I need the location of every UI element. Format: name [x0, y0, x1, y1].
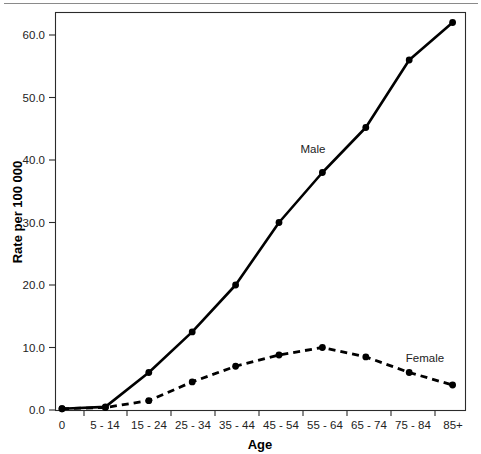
- data-point-female-9: [449, 382, 456, 389]
- x-tick-label-6: 55 - 64: [307, 419, 343, 431]
- data-point-male-7: [362, 124, 369, 131]
- data-point-female-1: [102, 404, 109, 411]
- data-point-female-4: [232, 363, 239, 370]
- data-point-male-9: [449, 19, 456, 26]
- x-tick-marks: [84, 411, 435, 417]
- x-tick-label-2: 15 - 24: [131, 419, 167, 431]
- x-tick-label-9: 85+: [443, 419, 463, 431]
- x-tick-labels: 0 5 - 14 15 - 24 25 - 34 35 - 44 45 - 54…: [59, 419, 463, 431]
- y-tick-marks: [49, 35, 56, 410]
- data-point-male-6: [319, 169, 326, 176]
- x-tick-label-3: 25 - 34: [175, 419, 211, 431]
- data-point-female-3: [189, 378, 196, 385]
- data-point-female-5: [276, 352, 283, 359]
- plot-frame: [56, 13, 466, 411]
- x-tick-label-8: 75 - 84: [395, 419, 431, 431]
- line-chart: 0.0 10.0 20.0 30.0 40.0 50.0 60.0 Rate p…: [0, 0, 481, 454]
- y-tick-label-1: 10.0: [23, 342, 45, 354]
- x-axis-title: Age: [248, 437, 273, 452]
- data-point-male-8: [406, 57, 413, 64]
- data-point-female-6: [319, 344, 326, 351]
- data-point-male-3: [189, 328, 196, 335]
- series-annotation-male: Male: [301, 143, 326, 155]
- y-tick-label-3: 30.0: [23, 217, 45, 229]
- y-tick-label-2: 20.0: [23, 279, 45, 291]
- series-annotation-female: Female: [406, 352, 444, 364]
- data-point-male-4: [232, 282, 239, 289]
- figure-container: 0.0 10.0 20.0 30.0 40.0 50.0 60.0 Rate p…: [0, 0, 481, 454]
- x-tick-label-5: 45 - 54: [263, 419, 299, 431]
- data-point-female-0: [59, 405, 66, 412]
- x-tick-label-7: 65 - 74: [351, 419, 387, 431]
- x-tick-label-4: 35 - 44: [219, 419, 255, 431]
- x-tick-label-0: 0: [59, 419, 65, 431]
- data-point-male-2: [145, 369, 152, 376]
- y-tick-label-4: 40.0: [23, 154, 45, 166]
- y-tick-labels: 0.0 10.0 20.0 30.0 40.0 50.0 60.0: [23, 29, 45, 416]
- y-axis-title: Rate per 100 000: [10, 161, 25, 264]
- y-tick-label-0: 0.0: [29, 404, 45, 416]
- data-point-female-7: [362, 353, 369, 360]
- y-tick-label-6: 60.0: [23, 29, 45, 41]
- data-point-male-5: [276, 219, 283, 226]
- x-tick-label-1: 5 - 14: [90, 419, 120, 431]
- data-point-female-8: [406, 369, 413, 376]
- data-point-female-2: [145, 397, 152, 404]
- y-tick-label-5: 50.0: [23, 92, 45, 104]
